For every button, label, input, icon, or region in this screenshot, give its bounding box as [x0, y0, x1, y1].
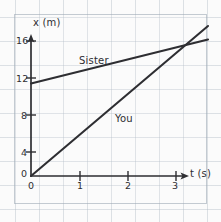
you-curve-label: You [115, 113, 133, 124]
y-axis [28, 34, 35, 176]
y-tick-label-0: 0 [21, 168, 27, 179]
sister-line [31, 40, 208, 84]
x-tick-label-0: 0 [28, 180, 34, 191]
x-tick-label-3: 3 [172, 180, 178, 191]
y-tick-label-12: 12 [16, 73, 29, 84]
y-tick-label-16: 16 [16, 35, 29, 46]
graph-paper-sheet: x (m) t (s) 16 12 8 4 0 0 1 2 3 Sister Y… [0, 0, 221, 222]
x-axis-title: t (s) [190, 168, 211, 179]
y-axis-title: x (m) [33, 17, 61, 28]
y-tick-label-8: 8 [21, 110, 27, 121]
x-tick-label-1: 1 [77, 180, 83, 191]
sister-curve-label: Sister [79, 55, 109, 66]
x-tick-label-2: 2 [125, 180, 131, 191]
you-line [31, 26, 208, 176]
x-axis [31, 173, 189, 180]
y-tick-label-4: 4 [21, 147, 27, 158]
